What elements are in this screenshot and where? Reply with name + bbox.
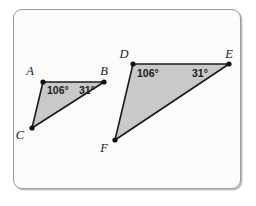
vertex-dot-b	[101, 79, 106, 84]
vertex-label-d: D	[118, 47, 128, 61]
angle-label-e-triangle-def: 31°	[192, 67, 208, 79]
angle-label-d-triangle-def: 106°	[137, 67, 159, 79]
vertex-label-e: E	[224, 47, 233, 61]
vertex-label-a: A	[25, 64, 34, 78]
figure-root: ABC106°31°DEF106°31°	[0, 0, 256, 206]
vertex-dot-c	[29, 125, 34, 130]
triangle-def	[115, 64, 229, 140]
vertex-dot-d	[130, 61, 135, 66]
vertex-dot-f	[112, 137, 117, 142]
similar-triangles-figure: ABC106°31°DEF106°31°	[0, 0, 256, 206]
vertex-label-f: F	[99, 141, 108, 155]
angle-label-a-triangle-abc: 106°	[47, 84, 69, 96]
vertex-dot-a	[40, 79, 45, 84]
angle-label-b-triangle-abc: 31°	[79, 84, 95, 96]
vertex-label-b: B	[100, 64, 108, 78]
vertex-dot-e	[226, 61, 231, 66]
vertex-label-c: C	[16, 128, 25, 142]
